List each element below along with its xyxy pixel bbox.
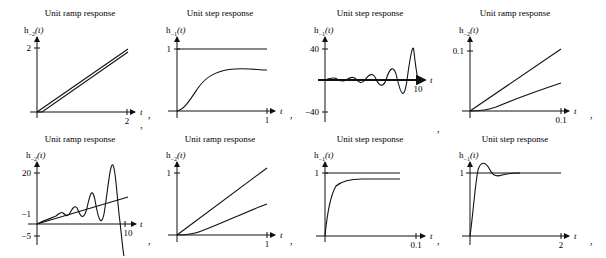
- y-axis-label: h−1(t): [314, 25, 333, 37]
- chart-panel-4: Unit ramp response h−2(t) 0.1 0.1 t: [453, 8, 577, 125]
- ramp-input-line: [470, 49, 561, 111]
- ramp-input-line: [37, 197, 128, 224]
- chart-title: Unit step response: [337, 8, 404, 18]
- y-axis-label: h−2(t): [26, 150, 45, 162]
- y-tick-label: −5: [21, 231, 31, 241]
- separator: ,: [590, 109, 593, 120]
- x-tick-label: 2: [125, 116, 130, 126]
- chart-title: Unit step response: [187, 8, 254, 18]
- figure-canvas: Unit ramp response h−2(t) 2 2 t , Unit s…: [0, 0, 606, 258]
- y-tick-label: 2: [27, 43, 32, 53]
- x-axis-label: t: [140, 219, 143, 229]
- x-tick-label: 1: [265, 239, 270, 249]
- ramp-input-line: [177, 168, 267, 235]
- chart-title: Unit step response: [337, 134, 404, 144]
- response-curve: [177, 69, 267, 111]
- response-curve: [470, 163, 520, 236]
- chart-title: Unit ramp response: [45, 8, 115, 18]
- x-tick-label: 1: [265, 115, 270, 125]
- x-axis-label: t: [430, 75, 433, 85]
- separator: ,: [437, 235, 440, 246]
- response-curve: [177, 204, 267, 235]
- y-tick-label: 1: [167, 168, 172, 178]
- chart-title: Unit step response: [482, 134, 549, 144]
- y-axis-label: h−1(t): [459, 150, 478, 162]
- chart-panel-5: Unit ramp response h−2(t) 20 −1 −5 10 t: [21, 134, 143, 256]
- response-curve: [325, 179, 400, 236]
- x-axis-label: t: [430, 231, 433, 241]
- x-tick-label: 2: [559, 240, 564, 250]
- separator: ,: [290, 109, 293, 120]
- y-tick-label: 0.1: [453, 46, 464, 56]
- chart-panel-7: Unit step response h−1(t) 1 0.1 t: [314, 134, 433, 250]
- x-tick-label: 0.1: [410, 240, 421, 250]
- separator: ,: [148, 109, 151, 120]
- separator: ,: [140, 119, 143, 130]
- x-tick-label: 10: [414, 84, 424, 94]
- chart-panel-3: Unit step response h−1(t) 40 −40 10 t: [305, 8, 433, 122]
- y-axis-label: h−2(t): [459, 25, 478, 37]
- response-curve: [470, 83, 561, 111]
- y-tick-label: −40: [305, 107, 320, 117]
- x-axis-label: t: [280, 106, 283, 116]
- chart-title: Unit ramp response: [185, 134, 255, 144]
- separator: ,: [148, 235, 151, 246]
- chart-panel-8: Unit step response h−1(t) 1 2 t: [459, 134, 577, 250]
- y-tick-label: 1: [315, 168, 320, 178]
- x-axis-label: t: [574, 106, 577, 116]
- separator: ,: [290, 235, 293, 246]
- y-tick-label: 1: [460, 168, 465, 178]
- y-tick-label: 40: [310, 44, 320, 54]
- chart-title: Unit ramp response: [480, 8, 550, 18]
- separator: ,: [437, 123, 440, 134]
- y-axis-label: h−1(t): [166, 25, 185, 37]
- chart-panel-2: Unit step response h−1(t) 1 1 t: [166, 8, 283, 125]
- y-axis-label: h−2(t): [166, 150, 185, 162]
- response-curve: [325, 48, 418, 93]
- y-tick-label: 1: [167, 44, 172, 54]
- x-axis-label: t: [140, 107, 143, 117]
- y-axis-label: h−1(t): [314, 150, 333, 162]
- ramp-input-line: [37, 49, 128, 112]
- x-tick-label: 0.1: [555, 115, 566, 125]
- y-axis-label: h−2(t): [24, 25, 43, 37]
- response-curve: [37, 165, 124, 256]
- x-axis-label: t: [280, 230, 283, 240]
- x-axis-label: t: [574, 231, 577, 241]
- y-tick-label: −1: [21, 209, 31, 219]
- chart-panel-6: Unit ramp response h−2(t) 1 1 t: [166, 134, 283, 249]
- x-tick-label: 10: [124, 228, 134, 238]
- chart-title: Unit ramp response: [45, 134, 115, 144]
- chart-panel-1: Unit ramp response h−2(t) 2 2 t: [24, 8, 143, 126]
- separator: ,: [590, 235, 593, 246]
- y-tick-label: 20: [22, 168, 32, 178]
